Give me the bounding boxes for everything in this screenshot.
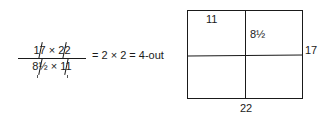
fraction-bar xyxy=(18,58,86,59)
label-17: 17 xyxy=(305,44,317,56)
cancel-tick-mark xyxy=(67,75,68,78)
result-expression: = 2 × 2 = 4-out xyxy=(92,49,164,61)
cancel-tick-mark xyxy=(37,75,38,78)
fraction-denominator: 8½ × 11 xyxy=(18,60,86,73)
imposition-fraction: 17 × 22 8½ × 11 xyxy=(18,44,86,73)
multiply-sign: × xyxy=(51,60,57,72)
label-11: 11 xyxy=(206,13,217,25)
label-8-half: 8½ xyxy=(250,28,265,40)
denominator-term-2: 11 xyxy=(60,60,71,72)
numerator-term-1: 17 xyxy=(33,44,45,56)
label-22: 22 xyxy=(240,102,252,114)
numerator-term-2: 22 xyxy=(58,44,70,56)
sheet-diagram: 11 8½ xyxy=(187,10,303,99)
fraction-numerator: 17 × 22 xyxy=(18,44,86,57)
multiply-sign: × xyxy=(49,44,55,56)
denominator-term-1: 8½ xyxy=(32,60,47,72)
